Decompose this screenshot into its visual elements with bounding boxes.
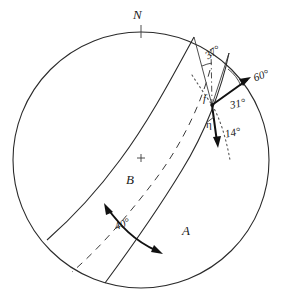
- chord-to-a: [212, 53, 229, 105]
- great-circle-b: [47, 37, 194, 240]
- slip-vector-f-label: f: [203, 93, 206, 104]
- eta-label: η: [206, 119, 212, 130]
- center-cross-icon: [137, 154, 145, 162]
- stereonet-figure: N 37° 60° 31° 14° f η B A 40°: [0, 0, 287, 299]
- great-circle-b-label: B: [126, 173, 134, 186]
- stereonet-canvas: [0, 0, 287, 299]
- north-label: N: [133, 8, 142, 21]
- arrow-14: [212, 105, 221, 148]
- great-circle-a-label: A: [182, 224, 190, 237]
- great-circle-a: [105, 53, 229, 283]
- node-point-marker: [210, 103, 214, 107]
- arc-37: [202, 63, 212, 66]
- arrow-40-double: [104, 203, 163, 254]
